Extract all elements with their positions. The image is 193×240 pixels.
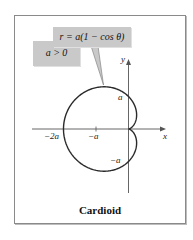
equation-callout: r = a(1 − cos θ)	[53, 27, 131, 47]
condition-text: a > 0	[46, 48, 68, 58]
y-axis-label: y	[121, 55, 125, 64]
figure-title: Cardioid	[14, 204, 186, 216]
equation-text: r = a(1 − cos θ)	[60, 32, 125, 42]
x-axis-label: x	[163, 132, 167, 141]
callout-pointer	[91, 46, 104, 85]
tick-label-minus-2a: −2a	[44, 132, 59, 141]
tick-label-minus-a-x: −a	[88, 132, 99, 141]
tick-label-a-y: a	[118, 93, 123, 102]
tick-label-minus-a-y: −a	[110, 156, 121, 165]
y-axis-arrow-icon	[126, 59, 131, 65]
